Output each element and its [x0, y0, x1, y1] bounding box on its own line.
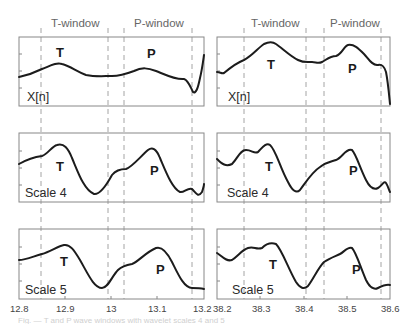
panel-label: Scale 4 — [227, 186, 269, 200]
panel-label: Scale 5 — [25, 283, 67, 297]
left-column: T-window P-window T P X[n] T P Scale 4 T… — [10, 17, 212, 314]
p-peak-label: P — [156, 262, 165, 277]
t-peak-label: T — [56, 159, 64, 174]
x-tick: 13.2 — [193, 303, 212, 314]
signal-trace — [19, 55, 204, 92]
x-tick: 38.2 — [213, 303, 232, 314]
figure-caption: Fig. — T and P wave windows with wavelet… — [18, 316, 408, 324]
panel-label: Scale 4 — [25, 186, 67, 200]
p-peak-label: P — [150, 163, 159, 178]
signal-trace — [217, 243, 390, 289]
x-tick: 38.3 — [252, 303, 271, 314]
x-tick: 13 — [106, 303, 117, 314]
x-tick: 38.4 — [295, 303, 314, 314]
right-column: T-window P-window T P X[n] T P Scale 4 T… — [213, 17, 400, 314]
signal-trace — [217, 144, 390, 192]
p-peak-label: P — [348, 61, 357, 76]
t-window-label: T-window — [251, 17, 300, 29]
t-peak-label: T — [269, 257, 277, 272]
panel-left-scale5: T P Scale 5 — [19, 229, 204, 299]
p-peak-label: P — [147, 46, 156, 61]
p-peak-label: P — [349, 163, 358, 178]
panel-label: Scale 5 — [232, 283, 274, 297]
t-peak-label: T — [267, 57, 275, 72]
panel-right-scale5: T P Scale 5 — [217, 229, 390, 299]
panel-right-scale4: T P Scale 4 — [217, 133, 390, 202]
p-window-label: P-window — [330, 17, 381, 29]
x-tick: 38.5 — [338, 303, 357, 314]
panel-left-scale4: T P Scale 4 — [19, 133, 204, 202]
t-peak-label: T — [265, 159, 273, 174]
p-peak-label: P — [352, 262, 361, 277]
panel-label: X[n] — [27, 90, 49, 104]
t-peak-label: T — [60, 254, 68, 269]
x-tick: 38.6 — [381, 303, 400, 314]
figure: T-window P-window T P X[n] T P Scale 4 T… — [0, 0, 415, 327]
t-peak-label: T — [56, 45, 64, 60]
panel-label: X[n] — [228, 90, 250, 104]
x-tick: 12.8 — [10, 303, 29, 314]
t-window-label: T-window — [51, 17, 100, 29]
x-tick: 13.1 — [148, 303, 167, 314]
p-window-label: P-window — [134, 17, 185, 29]
x-tick: 12.9 — [56, 303, 75, 314]
panel-left-xn: T P X[n] — [19, 37, 204, 106]
panel-right-xn: T P X[n] — [217, 37, 390, 106]
